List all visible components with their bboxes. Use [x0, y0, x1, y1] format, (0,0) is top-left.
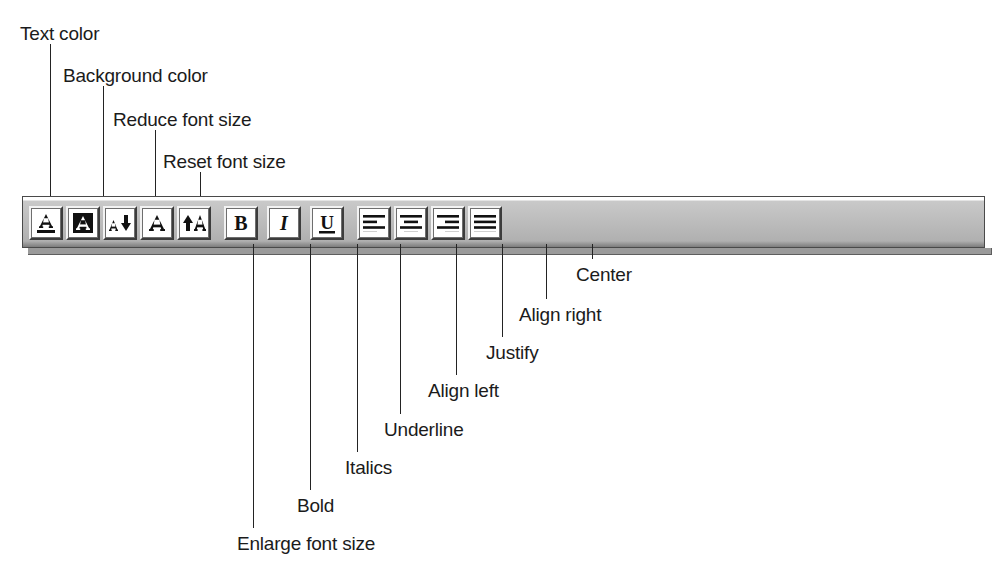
svg-text:B: B — [234, 213, 247, 233]
toolbar-button-reset-font-size[interactable] — [140, 206, 174, 240]
toolbar-shadow — [28, 248, 992, 255]
toolbar-button-strip: BIU — [29, 203, 980, 243]
underline-icon: U — [312, 208, 342, 238]
callout-label-background-color: Background color — [63, 66, 208, 86]
toolbar-button-italics[interactable]: I — [267, 206, 301, 240]
callout-leader-underline — [400, 244, 401, 414]
justify-icon — [470, 208, 500, 238]
callout-label-align-left: Align left — [428, 381, 499, 401]
toolbar-button-bold[interactable]: B — [224, 206, 258, 240]
callout-leader-align-left — [456, 244, 457, 375]
callout-label-underline: Underline — [384, 420, 464, 440]
svg-text:I: I — [279, 213, 289, 233]
callout-label-center: Center — [576, 265, 632, 285]
align-center-icon — [396, 208, 426, 238]
callout-label-enlarge-font-size: Enlarge font size — [237, 534, 375, 554]
reduce-font-size-icon — [105, 208, 135, 238]
callout-label-reduce-font-size: Reduce font size — [113, 110, 251, 130]
callout-leader-italics — [357, 244, 358, 452]
callout-leader-bold — [310, 244, 311, 490]
align-right-icon — [433, 208, 463, 238]
toolbar-button-justify[interactable] — [468, 206, 502, 240]
toolbar-button-center[interactable] — [394, 206, 428, 240]
toolbar-button-reduce-font-size[interactable] — [103, 206, 137, 240]
figure-canvas: Text colorBackground colorReduce font si… — [0, 0, 1008, 577]
callout-label-align-right: Align right — [519, 305, 601, 325]
bold-icon: B — [226, 208, 256, 238]
callout-leader-justify — [502, 244, 503, 337]
callout-leader-align-right — [546, 244, 547, 299]
toolbar-button-enlarge-font-size[interactable] — [177, 206, 211, 240]
reset-font-size-icon — [142, 208, 172, 238]
toolbar-button-underline[interactable]: U — [310, 206, 344, 240]
svg-text:U: U — [320, 213, 334, 233]
toolbar-button-text-color[interactable] — [29, 206, 63, 240]
callout-leader-enlarge-font-size — [253, 244, 254, 528]
align-left-icon — [359, 208, 389, 238]
enlarge-font-size-icon — [179, 208, 209, 238]
callout-leader-background-color — [103, 86, 104, 214]
toolbar-button-align-right[interactable] — [431, 206, 465, 240]
callout-label-reset-font-size: Reset font size — [163, 152, 286, 172]
background-color-icon — [68, 208, 98, 238]
callout-label-text-color: Text color — [20, 24, 99, 44]
callout-label-bold: Bold — [297, 496, 334, 516]
toolbar-button-background-color[interactable] — [66, 206, 100, 240]
callout-label-justify: Justify — [486, 343, 538, 363]
formatting-toolbar: BIU — [22, 196, 985, 248]
callout-leader-center — [592, 244, 593, 259]
text-color-icon — [31, 208, 61, 238]
italics-icon: I — [269, 208, 299, 238]
callout-leader-text-color — [50, 44, 51, 214]
toolbar-container: BIU — [22, 196, 985, 256]
callout-label-italics: Italics — [345, 458, 392, 478]
toolbar-button-align-left[interactable] — [357, 206, 391, 240]
